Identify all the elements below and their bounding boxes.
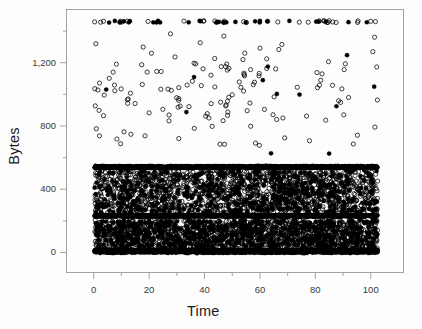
scatter-plot-canvas [0,0,422,329]
x-axis-title: Time [187,303,219,319]
y-tick-label-800: 800 [12,120,56,131]
x-tick-label-80: 80 [295,284,335,295]
x-tick-label-0: 0 [74,284,114,295]
data-points-layer [92,19,379,256]
x-tick-label-40: 40 [185,284,225,295]
x-tick-label-20: 20 [129,284,169,295]
y-tick-label-1200: 1,200 [12,57,56,68]
chart-figure: Bytes Time 04008001,200 020406080100 [0,0,422,329]
y-tick-label-0: 0 [12,246,56,257]
x-tick-label-60: 60 [240,284,280,295]
y-tick-label-400: 400 [12,183,56,194]
x-tick-label-100: 100 [351,284,391,295]
